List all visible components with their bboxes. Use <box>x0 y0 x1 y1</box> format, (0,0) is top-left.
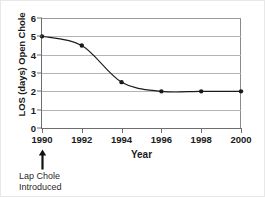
y-axis-tick-mark <box>37 73 42 74</box>
y-axis-tick-label: 6 <box>22 13 36 24</box>
y-axis-tick-mark <box>37 18 42 19</box>
y-axis-tick-mark <box>37 36 42 37</box>
data-point <box>80 43 84 47</box>
y-axis-tick-label: 5 <box>22 31 36 42</box>
chart-figure: LOS (days) Open Chole 0123456 Year Lap C… <box>0 0 265 197</box>
x-axis-tick-mark <box>82 129 83 133</box>
x-axis-tick-mark <box>201 129 202 133</box>
x-axis-tick-label: 1992 <box>62 134 102 145</box>
x-axis-tick-label: 1998 <box>181 134 221 145</box>
y-axis-tick-label: 4 <box>22 49 36 60</box>
x-axis-tick-mark <box>161 129 162 133</box>
annotation-line-2: Introduced <box>19 182 62 193</box>
x-axis-tick-label: 1996 <box>141 134 181 145</box>
x-axis-spine <box>42 128 242 129</box>
x-axis-tick-label: 2000 <box>221 134 261 145</box>
y-axis-tick-mark <box>37 54 42 55</box>
up-arrow-icon <box>38 149 47 170</box>
annotation-line-1: Lap Chole <box>19 171 62 182</box>
x-axis-title: Year <box>42 149 241 160</box>
data-point <box>159 89 163 93</box>
y-axis-tick-label: 3 <box>22 68 36 79</box>
y-axis-tick-mark <box>37 109 42 110</box>
series-markers <box>40 34 243 93</box>
y-axis-tick-label: 2 <box>22 86 36 97</box>
data-point <box>119 80 123 84</box>
data-point <box>199 89 203 93</box>
y-axis-tick-label: 0 <box>22 123 36 134</box>
data-point <box>239 89 243 93</box>
x-axis-tick-mark <box>122 129 123 133</box>
data-series-los-open-chole <box>42 18 241 128</box>
x-axis-tick-mark <box>42 129 43 133</box>
x-axis-tick-mark <box>241 129 242 133</box>
series-line <box>42 36 241 92</box>
y-axis-tick-labels: 0123456 <box>22 1 36 197</box>
x-axis-tick-label: 1994 <box>102 134 142 145</box>
y-axis-tick-label: 1 <box>22 104 36 115</box>
annotation-lap-chole-introduced: Lap Chole Introduced <box>19 171 62 192</box>
y-axis-tick-mark <box>37 91 42 92</box>
x-axis-tick-label: 1990 <box>22 134 62 145</box>
